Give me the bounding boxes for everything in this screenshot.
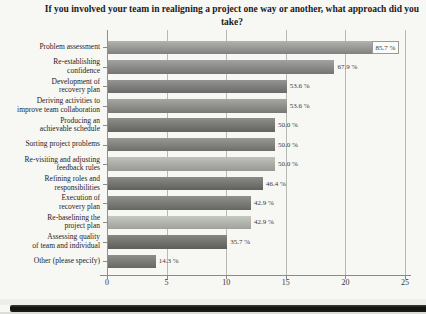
category-tick [103, 261, 107, 262]
chart-title: If you involved your team in realigning … [42, 3, 422, 29]
bar [108, 157, 275, 171]
category-tick [103, 86, 107, 87]
bar-value-label: 42.9 % [254, 196, 274, 210]
bar-value-label: 53.6 % [290, 99, 310, 113]
category-label: Deriving activities to improve team coll… [2, 97, 100, 114]
bar-value-label: 85.7 % [372, 41, 399, 54]
category-tick [103, 184, 107, 185]
bar-value-label: 14.3 % [159, 255, 179, 269]
category-tick [103, 242, 107, 243]
category-label: Development of recovery plan [2, 78, 100, 95]
bar [108, 80, 287, 94]
bar [108, 177, 263, 191]
bar [108, 196, 251, 210]
bar-value-label: 67.9 % [337, 60, 357, 74]
bar [108, 216, 251, 230]
category-label: Re-baselining the project plan [2, 214, 100, 231]
x-tick-label: 20 [334, 278, 356, 287]
bar [108, 41, 394, 55]
category-label: Producing an achievable schedule [2, 117, 100, 134]
gridline [405, 30, 406, 275]
bar [108, 255, 156, 269]
category-label: Execution of recovery plan [2, 194, 100, 211]
bar-value-label: 35.7 % [230, 235, 250, 249]
category-tick [103, 145, 107, 146]
x-tick-label: 5 [156, 278, 178, 287]
bar-value-label: 50.0 % [278, 118, 298, 132]
x-tick-label: 0 [96, 278, 118, 287]
bar [108, 118, 275, 132]
bar-value-label: 46.4 % [266, 177, 286, 191]
category-label: Refining roles and responsibilities [2, 175, 100, 192]
category-tick [103, 47, 107, 48]
bar-value-label: 42.9 % [254, 216, 274, 230]
x-tick-label: 15 [275, 278, 297, 287]
category-label: Other (please specify) [2, 257, 100, 266]
category-label: Re-visiting and adjusting feedback rules [2, 156, 100, 173]
category-tick [103, 106, 107, 107]
category-tick [103, 203, 107, 204]
category-label: Re-establishing confidence [2, 58, 100, 75]
bar-value-label: 50.0 % [278, 157, 298, 171]
bar [108, 60, 334, 74]
bar-value-label: 53.6 % [290, 80, 310, 94]
category-tick [103, 125, 107, 126]
bar [108, 99, 287, 113]
category-tick [103, 222, 107, 223]
scan-artifact-rule [10, 305, 426, 312]
category-tick [103, 164, 107, 165]
bar-value-label: 50.0 % [278, 138, 298, 152]
scanned-chart-page: If you involved your team in realigning … [0, 0, 426, 314]
x-axis-line [100, 275, 411, 276]
bar [108, 235, 227, 249]
category-label: Problem assessment [2, 43, 100, 52]
category-label: Sorting project problems [2, 140, 100, 149]
plot-area: 85.7 %67.9 %53.6 %53.6 %50.0 %50.0 %50.0… [107, 30, 405, 275]
bar [108, 138, 275, 152]
category-label: Assessing quality of team and individual [2, 233, 100, 250]
category-axis-labels: Problem assessmentRe-establishing confid… [0, 30, 103, 275]
category-tick [103, 67, 107, 68]
x-tick-label: 25 [394, 278, 416, 287]
x-tick-label: 10 [215, 278, 237, 287]
